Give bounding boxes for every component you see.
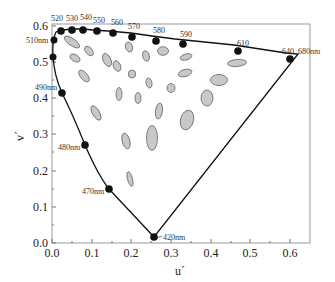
x-axis-label: u´ bbox=[175, 264, 185, 278]
wavelength-markers bbox=[50, 26, 294, 241]
label-570: 570 bbox=[128, 22, 140, 31]
y-tick-label: 0.3 bbox=[33, 127, 48, 141]
x-tick-label: 0.5 bbox=[243, 246, 258, 260]
spectral-locus bbox=[53, 29, 298, 237]
wavelength-labels: 420nm 470nm 480nm 490nm 510nm 520 530 54… bbox=[26, 13, 321, 242]
x-tick-label: 0.4 bbox=[204, 246, 219, 260]
label-480: 480nm bbox=[58, 143, 81, 152]
label-520: 520 bbox=[51, 14, 63, 23]
y-tick-label: 0.5 bbox=[33, 55, 48, 69]
y-tick-label: 0.1 bbox=[33, 200, 48, 214]
label-510: 510nm bbox=[26, 36, 49, 45]
label-470: 470nm bbox=[82, 187, 105, 196]
y-tick-label: 0.2 bbox=[33, 164, 48, 178]
x-tick-label: 0.3 bbox=[164, 246, 179, 260]
label-530: 530 bbox=[66, 14, 78, 23]
discrimination-ellipses bbox=[63, 34, 247, 187]
y-tick-label: 0.6 bbox=[33, 19, 48, 33]
x-tick-label: 0.1 bbox=[85, 246, 100, 260]
x-tick-label: 0.6 bbox=[283, 246, 298, 260]
label-540: 540 bbox=[80, 13, 92, 22]
y-axis-label: v´ bbox=[13, 131, 27, 141]
y-tick-label: 0.4 bbox=[33, 91, 48, 105]
x-tick-labels: 0.0 0.1 0.2 0.3 0.4 0.5 0.6 bbox=[45, 246, 298, 260]
label-610: 610 bbox=[237, 39, 249, 48]
label-550: 550 bbox=[93, 16, 105, 25]
label-580: 580 bbox=[153, 26, 165, 35]
label-490: 490nm bbox=[35, 83, 58, 92]
cie-uv-chart: 0.0 0.1 0.2 0.3 0.4 0.5 0.6 u´ 0.0 0.1 0… bbox=[0, 0, 335, 282]
x-tick-label: 0.2 bbox=[124, 246, 139, 260]
y-tick-labels: 0.0 0.1 0.2 0.3 0.4 0.5 0.6 bbox=[33, 19, 48, 250]
label-640: 640 bbox=[282, 47, 294, 56]
y-tick-label: 0.0 bbox=[33, 236, 48, 250]
label-420: 420nm bbox=[163, 233, 186, 242]
label-590: 590 bbox=[180, 30, 192, 39]
label-560: 560 bbox=[111, 18, 123, 27]
label-680: 680nm bbox=[298, 47, 321, 56]
